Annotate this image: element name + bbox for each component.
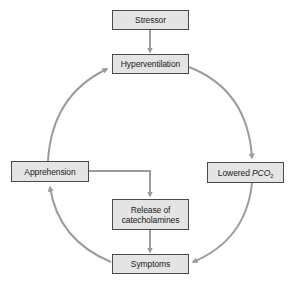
node-apprehension-label: Apprehension: [24, 167, 75, 177]
arrow-symptoms-to-apprehension: [50, 187, 111, 262]
node-release-line2: catecholamines: [122, 215, 180, 225]
node-symptoms-label: Symptoms: [131, 259, 170, 269]
arrow-hyperventilation-to-lowered-pco2: [189, 67, 252, 158]
node-apprehension: Apprehension: [11, 161, 89, 182]
node-stressor: Stressor: [112, 10, 189, 30]
arrow-apprehension-to-hyperventilation: [48, 69, 107, 161]
node-lowered-pco2-label: Lowered PCO2: [218, 168, 273, 178]
arrow-apprehension-to-release: [89, 171, 150, 196]
node-hyperventilation-label: Hyperventilation: [121, 59, 180, 69]
node-symptoms: Symptoms: [112, 254, 189, 274]
node-release-line1: Release of: [131, 205, 171, 215]
arrow-lowered-pco2-to-symptoms: [193, 183, 252, 262]
node-stressor-label: Stressor: [135, 15, 166, 25]
label-prefix: Lowered: [218, 168, 252, 178]
label-subscript: 2: [270, 173, 273, 179]
connectors: [0, 0, 291, 282]
diagram-canvas: Stressor Hyperventilation Lowered PCO2 A…: [0, 0, 291, 282]
node-hyperventilation: Hyperventilation: [112, 54, 189, 74]
label-italic: PCO: [252, 168, 270, 178]
node-lowered-pco2: Lowered PCO2: [207, 162, 284, 183]
node-release-of-catecholamines: Release of catecholamines: [112, 199, 189, 230]
